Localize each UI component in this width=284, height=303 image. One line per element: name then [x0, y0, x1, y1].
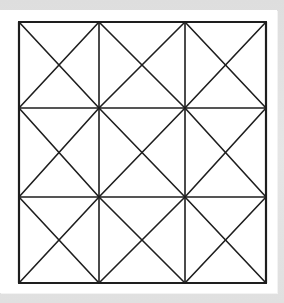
grid-diagram: [0, 0, 284, 303]
